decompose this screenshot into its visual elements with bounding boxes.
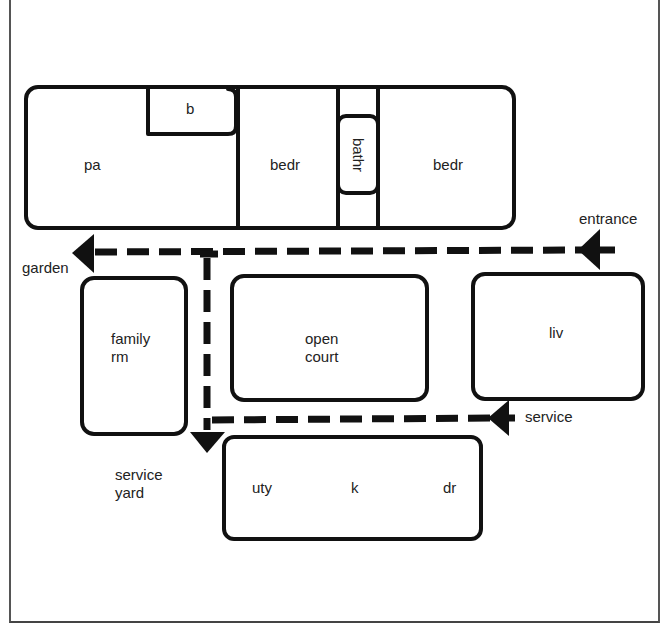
room-bedr-2: bedr xyxy=(433,156,463,174)
service-yard-arrowhead-icon xyxy=(190,432,225,453)
room-pa: pa xyxy=(84,156,101,174)
label-garden: garden xyxy=(22,259,69,277)
label-service-yard: service yard xyxy=(115,466,163,502)
room-dr: dr xyxy=(443,479,456,497)
room-open-court: open court xyxy=(305,330,338,366)
room-k: k xyxy=(351,479,359,497)
main-corridor-path xyxy=(95,250,590,252)
room-bathr: bathr xyxy=(349,135,367,175)
entrance-arrowhead-icon xyxy=(578,229,600,270)
room-liv: liv xyxy=(549,324,563,342)
label-entrance: entrance xyxy=(579,210,637,228)
room-uty: uty xyxy=(252,479,272,497)
service-path xyxy=(212,418,495,420)
garden-arrowhead-icon xyxy=(72,234,94,273)
room-family-rm: family rm xyxy=(111,330,150,366)
service-arrowhead-icon xyxy=(488,400,509,436)
label-service: service xyxy=(525,408,573,426)
room-b: b xyxy=(186,100,194,118)
room-bedr-1: bedr xyxy=(270,156,300,174)
floor-plan-drawing xyxy=(0,0,663,627)
